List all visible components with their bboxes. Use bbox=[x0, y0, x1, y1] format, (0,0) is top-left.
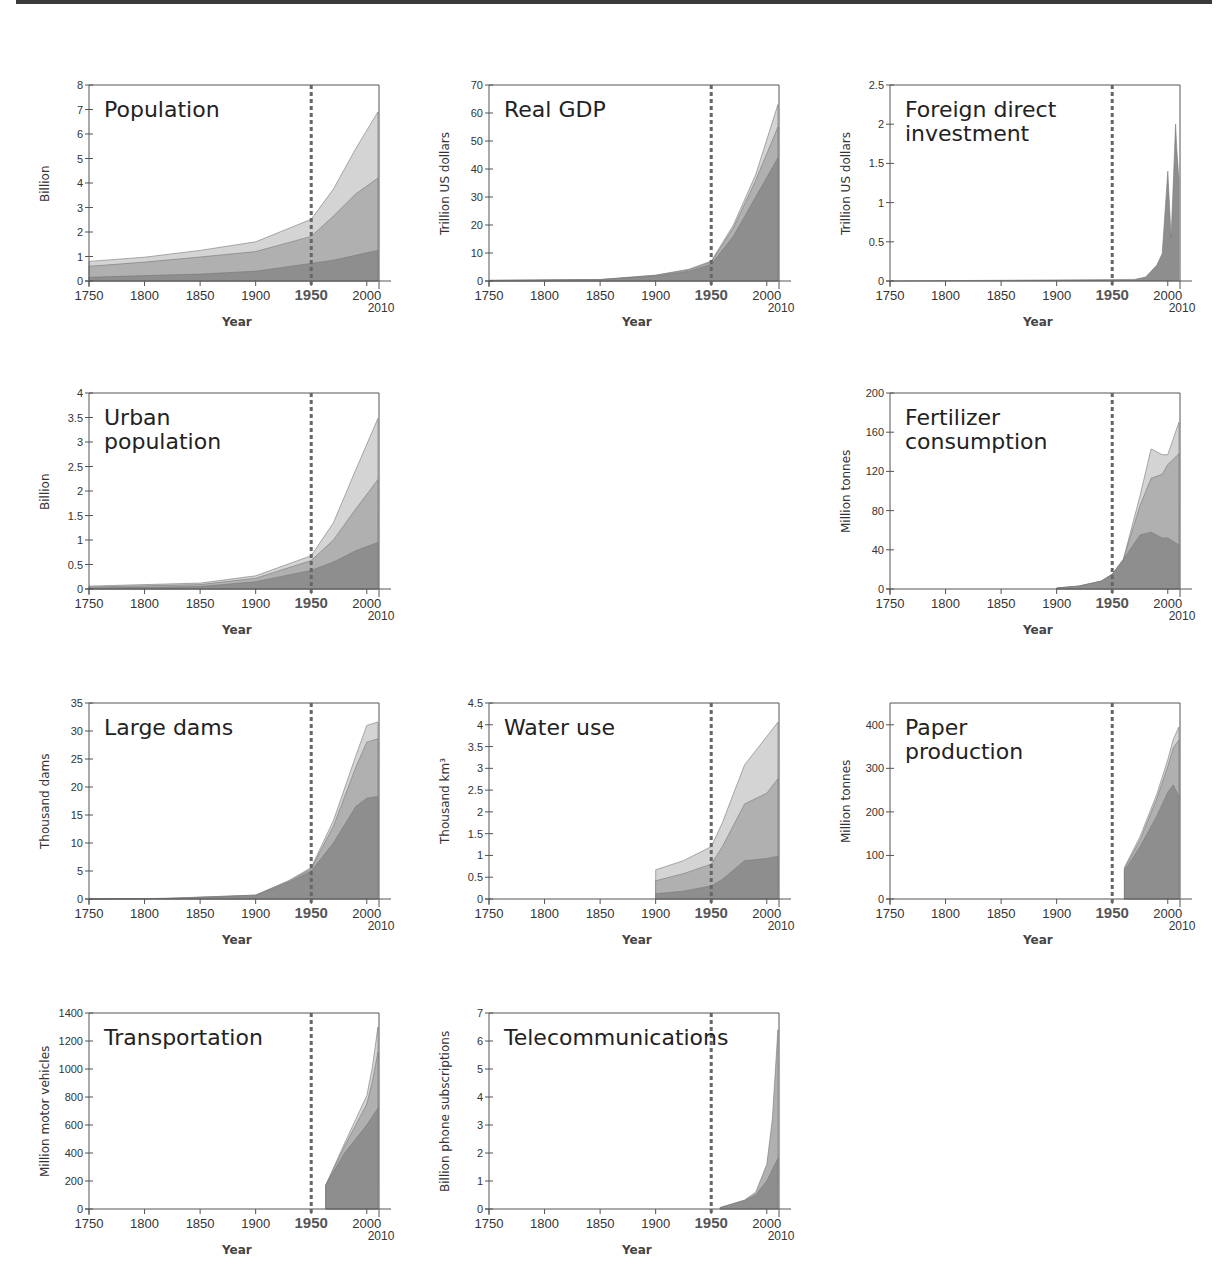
svg-text:160: 160 bbox=[866, 426, 884, 438]
svg-text:200: 200 bbox=[866, 806, 884, 818]
svg-text:2010: 2010 bbox=[1169, 301, 1196, 315]
x-axis-label: Year bbox=[1023, 623, 1053, 637]
svg-text:1900: 1900 bbox=[641, 288, 670, 303]
chart-panel-water-use: 00.511.522.533.544.517501800185019001950… bbox=[400, 703, 800, 1003]
svg-text:1.5: 1.5 bbox=[68, 510, 83, 522]
svg-text:30: 30 bbox=[71, 725, 83, 737]
svg-text:1750: 1750 bbox=[475, 288, 504, 303]
svg-text:1400: 1400 bbox=[59, 1007, 83, 1019]
svg-text:1900: 1900 bbox=[641, 1216, 670, 1231]
svg-text:0: 0 bbox=[77, 893, 83, 905]
svg-text:1850: 1850 bbox=[186, 288, 215, 303]
svg-text:1950: 1950 bbox=[295, 286, 328, 303]
x-axis-label: Year bbox=[1023, 933, 1053, 947]
svg-text:0: 0 bbox=[77, 583, 83, 595]
svg-text:1750: 1750 bbox=[876, 288, 905, 303]
y-axis-label: Million tonnes bbox=[839, 449, 853, 532]
svg-text:3.5: 3.5 bbox=[468, 741, 483, 753]
svg-text:6: 6 bbox=[77, 128, 83, 140]
svg-text:4: 4 bbox=[477, 1091, 483, 1103]
svg-text:1950: 1950 bbox=[295, 904, 328, 921]
chart-panel-large-dams: 0510152025303517501800185019001950200020… bbox=[0, 703, 400, 1003]
svg-text:20: 20 bbox=[71, 781, 83, 793]
svg-text:1800: 1800 bbox=[130, 596, 159, 611]
svg-text:2010: 2010 bbox=[368, 609, 395, 623]
chart-panel-real-gdp: 0102030405060701750180018501900195020002… bbox=[400, 85, 800, 385]
svg-text:0.5: 0.5 bbox=[468, 871, 483, 883]
svg-text:0: 0 bbox=[477, 893, 483, 905]
y-axis-label: Thousand km³ bbox=[438, 758, 452, 844]
chart-plot-real-gdp: 0102030405060701750180018501900195020002… bbox=[400, 85, 820, 345]
svg-text:2: 2 bbox=[77, 226, 83, 238]
svg-text:5: 5 bbox=[77, 865, 83, 877]
svg-text:8: 8 bbox=[77, 79, 83, 91]
svg-text:1: 1 bbox=[477, 1175, 483, 1187]
svg-text:1.5: 1.5 bbox=[468, 828, 483, 840]
svg-text:200: 200 bbox=[866, 387, 884, 399]
svg-text:30: 30 bbox=[471, 191, 483, 203]
chart-panel-foreign-direct-investment: 00.511.522.51750180018501900195020002010… bbox=[801, 85, 1201, 385]
svg-text:1850: 1850 bbox=[186, 906, 215, 921]
svg-text:0: 0 bbox=[77, 275, 83, 287]
svg-text:400: 400 bbox=[65, 1147, 83, 1159]
area-layer1 bbox=[1057, 532, 1179, 589]
svg-text:2010: 2010 bbox=[368, 919, 395, 933]
svg-text:1950: 1950 bbox=[695, 904, 728, 921]
svg-text:0: 0 bbox=[878, 893, 884, 905]
svg-text:7: 7 bbox=[77, 104, 83, 116]
svg-text:1800: 1800 bbox=[931, 906, 960, 921]
svg-text:1850: 1850 bbox=[987, 906, 1016, 921]
svg-text:80: 80 bbox=[872, 505, 884, 517]
svg-text:0: 0 bbox=[477, 275, 483, 287]
chart-panel-transportation: 0200400600800100012001400175018001850190… bbox=[0, 1013, 400, 1281]
svg-text:1900: 1900 bbox=[241, 288, 270, 303]
svg-text:2.5: 2.5 bbox=[68, 461, 83, 473]
svg-text:200: 200 bbox=[65, 1175, 83, 1187]
y-axis-label: Million motor vehicles bbox=[38, 1045, 52, 1176]
svg-text:2010: 2010 bbox=[1169, 919, 1196, 933]
svg-text:2: 2 bbox=[878, 118, 884, 130]
x-axis-label: Year bbox=[222, 623, 252, 637]
svg-text:1950: 1950 bbox=[1096, 594, 1129, 611]
top-border-bar bbox=[16, 0, 1212, 4]
svg-text:3: 3 bbox=[477, 1119, 483, 1131]
svg-text:20: 20 bbox=[471, 219, 483, 231]
area-layer1 bbox=[1124, 785, 1179, 899]
chart-title: Population bbox=[104, 98, 220, 122]
svg-text:1900: 1900 bbox=[241, 1216, 270, 1231]
svg-text:1000: 1000 bbox=[59, 1063, 83, 1075]
svg-text:2: 2 bbox=[77, 485, 83, 497]
svg-text:0.5: 0.5 bbox=[869, 236, 884, 248]
svg-text:1750: 1750 bbox=[75, 288, 104, 303]
svg-text:1: 1 bbox=[77, 251, 83, 263]
chart-panel-paper-production: 0100200300400175018001850190019502000201… bbox=[801, 703, 1201, 1003]
chart-plot-large-dams: 0510152025303517501800185019001950200020… bbox=[0, 703, 420, 963]
chart-plot-population: 0123456781750180018501900195020002010 bbox=[0, 85, 420, 345]
svg-text:100: 100 bbox=[866, 849, 884, 861]
svg-text:1850: 1850 bbox=[186, 1216, 215, 1231]
svg-text:2010: 2010 bbox=[768, 919, 795, 933]
chart-title: Real GDP bbox=[504, 98, 606, 122]
svg-text:1800: 1800 bbox=[130, 906, 159, 921]
svg-text:3: 3 bbox=[77, 436, 83, 448]
svg-text:1800: 1800 bbox=[530, 1216, 559, 1231]
y-axis-label: Million tonnes bbox=[839, 759, 853, 842]
svg-text:2010: 2010 bbox=[368, 301, 395, 315]
svg-text:1800: 1800 bbox=[530, 288, 559, 303]
x-axis-label: Year bbox=[1023, 315, 1053, 329]
chart-title: Paper production bbox=[905, 716, 1023, 764]
svg-text:0: 0 bbox=[477, 1203, 483, 1215]
svg-text:3: 3 bbox=[77, 202, 83, 214]
svg-text:1750: 1750 bbox=[75, 596, 104, 611]
svg-text:1900: 1900 bbox=[1042, 906, 1071, 921]
svg-text:1: 1 bbox=[878, 197, 884, 209]
area-total bbox=[890, 124, 1179, 281]
chart-panel-telecommunications: 012345671750180018501900195020002010Bill… bbox=[400, 1013, 800, 1281]
svg-text:1: 1 bbox=[77, 534, 83, 546]
svg-text:4: 4 bbox=[77, 387, 83, 399]
svg-text:1850: 1850 bbox=[586, 906, 615, 921]
svg-text:3: 3 bbox=[477, 762, 483, 774]
svg-text:4: 4 bbox=[477, 719, 483, 731]
svg-text:35: 35 bbox=[71, 697, 83, 709]
svg-text:2.5: 2.5 bbox=[468, 784, 483, 796]
